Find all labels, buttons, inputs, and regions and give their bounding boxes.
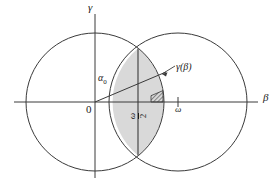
origin-label: 0 — [86, 104, 92, 115]
half-omega-denominator: 2 — [138, 113, 148, 120]
y-axis-label: γ — [88, 2, 92, 13]
geometry-figure: γ β 0 α0 ω γ(β) ω 2 — [0, 0, 279, 187]
alpha-zero-subscript: 0 — [103, 78, 107, 86]
half-omega-numerator: ω — [128, 112, 137, 120]
figure-canvas — [0, 0, 279, 187]
gamma-of-beta-label: γ(β) — [176, 62, 192, 72]
omega-tick-label: ω — [175, 105, 181, 114]
x-axis-label: β — [263, 92, 268, 103]
alpha-zero-label: α0 — [98, 73, 107, 86]
gamma-beta-callout-arrow — [162, 66, 175, 76]
half-omega-fraction: ω 2 — [128, 112, 148, 120]
half-omega-label: ω 2 — [121, 108, 155, 124]
